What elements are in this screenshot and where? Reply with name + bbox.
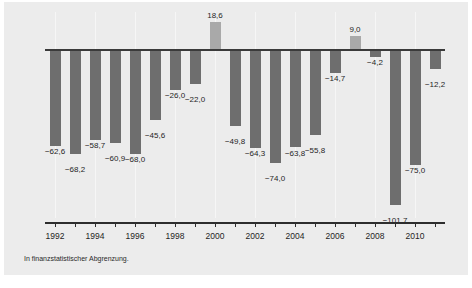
x-axis-label: 2002 [246,231,265,241]
bar [50,50,61,146]
bar [190,50,201,84]
bar [110,50,121,143]
bar [90,50,101,140]
x-axis-label: 1998 [166,231,185,241]
bar [270,50,281,163]
x-axis-tick [235,222,236,227]
x-axis-label: 2006 [326,231,345,241]
x-axis-label: 2000 [206,231,225,241]
x-axis-label: 2004 [286,231,305,241]
x-axis-line [45,222,445,224]
bar [410,50,421,164]
bar-value-label: −22,0 [185,95,205,104]
x-axis-tick [255,222,256,227]
bar [350,36,361,50]
bar [70,50,81,154]
bar [390,50,401,205]
x-axis-tick [355,222,356,227]
x-axis-label: 2010 [406,231,425,241]
x-axis-tick [275,222,276,227]
gridline [375,12,376,218]
x-axis-tick [55,222,56,227]
bar [290,50,301,147]
bar [170,50,181,90]
x-axis-tick [115,222,116,227]
bar [150,50,161,120]
bar-value-label: −63,8 [285,149,305,158]
x-axis-tick [175,222,176,227]
bar [430,50,441,69]
bar [250,50,261,148]
x-axis-tick [335,222,336,227]
x-axis-tick [295,222,296,227]
x-axis-tick [155,222,156,227]
x-axis-tick [95,222,96,227]
bar-value-label: −62,6 [45,147,65,156]
x-axis-tick [75,222,76,227]
bar [310,50,321,135]
bar [130,50,141,154]
bar-value-label: −55,8 [305,146,325,155]
x-axis-label: 2008 [366,231,385,241]
bar-value-label: −49,8 [225,137,245,146]
bar-value-label: −14,7 [325,74,345,83]
gridline [335,12,336,218]
bar-value-label: −58,7 [85,141,105,150]
gridline [175,12,176,218]
bar-value-label: −12,2 [425,80,445,89]
bar-value-label: −75,0 [405,166,425,175]
x-axis-label: 1992 [46,231,65,241]
bar-value-label: −60,9 [105,154,125,163]
x-axis-label: 1994 [86,231,105,241]
zero-baseline [45,49,445,51]
x-axis-tick [415,222,416,227]
x-axis-tick [435,222,436,227]
x-axis-tick [215,222,216,227]
x-axis-tick [395,222,396,227]
bar [210,22,221,50]
x-axis-tick [195,222,196,227]
bar-value-label: −64,3 [245,149,265,158]
bar-value-label: −68,0 [125,155,145,164]
bar-value-label: −45,6 [145,131,165,140]
bar-value-label: 9,0 [349,25,360,34]
chart-figure: −62,6−68,2−58,7−60,9−68,0−45,6−26,0−22,0… [0,0,472,288]
bar [330,50,341,72]
x-axis-label: 1996 [126,231,145,241]
bar-value-label: −68,2 [65,165,85,174]
x-axis-tick [375,222,376,227]
bar-value-label: −26,0 [165,91,185,100]
bar-value-label: −74,0 [265,174,285,183]
bar-value-label: 18,6 [207,11,223,20]
bar [230,50,241,126]
chart-footnote: In finanzstatistischer Abgrenzung. [24,255,129,262]
x-axis-tick [135,222,136,227]
bar-value-label: −4,2 [367,58,383,67]
plot-area: −62,6−68,2−58,7−60,9−68,0−45,6−26,0−22,0… [45,12,445,218]
x-axis-tick [315,222,316,227]
